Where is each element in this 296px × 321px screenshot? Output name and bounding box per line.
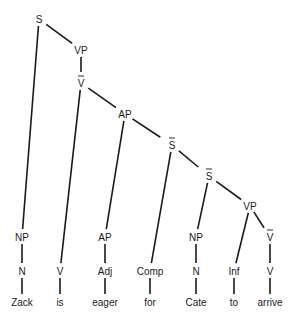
node-v1: V bbox=[57, 266, 64, 277]
tree-edges bbox=[22, 24, 270, 294]
tree-edge-ap1-sbar bbox=[133, 119, 161, 137]
node-vbar1: V bbox=[78, 78, 85, 89]
tree-edge-s2-vp2 bbox=[216, 181, 241, 199]
node-comp: Comp bbox=[137, 266, 164, 277]
tree-edge-vbar1-v1 bbox=[61, 90, 80, 263]
node-s2: S bbox=[206, 171, 213, 182]
tree-edge-sbar-s2 bbox=[179, 151, 198, 167]
tree-edge-ap1-ap2 bbox=[106, 121, 124, 229]
word-for: for bbox=[144, 297, 156, 308]
node-sbar: S bbox=[169, 140, 176, 151]
tree-edge-vbar1-ap1 bbox=[88, 88, 116, 107]
tree-edge-vp2-inf bbox=[236, 213, 248, 263]
word-eager: eager bbox=[92, 297, 118, 308]
node-n2: N bbox=[192, 266, 199, 277]
node-s: S bbox=[36, 14, 43, 25]
tree-edge-s-np1 bbox=[23, 26, 39, 229]
node-n1: N bbox=[18, 266, 25, 277]
tree-edge-sbar-comp bbox=[151, 152, 170, 263]
node-np1: NP bbox=[15, 232, 29, 243]
word-zack: Zack bbox=[11, 297, 34, 308]
node-ap1: AP bbox=[118, 109, 132, 120]
tree-edge-s2-np2 bbox=[198, 183, 208, 229]
node-adj: Adj bbox=[98, 266, 112, 277]
node-vp2: VP bbox=[243, 201, 257, 212]
node-v2: V bbox=[267, 266, 274, 277]
word-arrive: arrive bbox=[257, 297, 282, 308]
tree-edge-s-vp1 bbox=[46, 24, 72, 43]
node-np2: NP bbox=[189, 232, 203, 243]
node-ap2: AP bbox=[98, 232, 112, 243]
tree-nodes: SVPVAPSSVPNPNZackVisAPAdjeagerCompforNPN… bbox=[11, 14, 283, 308]
node-inf: Inf bbox=[228, 266, 239, 277]
syntax-tree-diagram: SVPVAPSSVPNPNZackVisAPAdjeagerCompforNPN… bbox=[0, 0, 296, 321]
word-to: to bbox=[230, 297, 239, 308]
node-vbar2: V bbox=[267, 232, 274, 243]
word-is: is bbox=[56, 297, 63, 308]
node-vp1: VP bbox=[74, 45, 88, 56]
word-cate: Cate bbox=[185, 297, 207, 308]
tree-edge-vp2-vbar2 bbox=[254, 212, 264, 228]
